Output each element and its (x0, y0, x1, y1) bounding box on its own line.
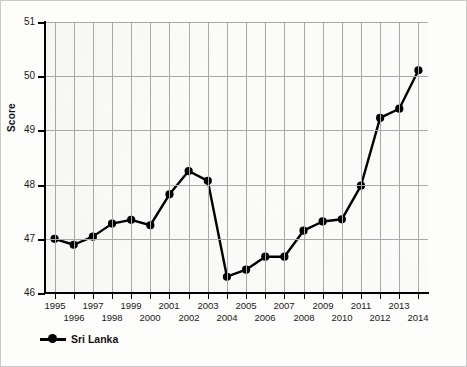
y-tick-label-46: 46 (24, 288, 35, 298)
legend-dot (48, 334, 57, 343)
gridline-v-2002 (189, 22, 190, 293)
x-tick-label-2014: 2014 (407, 313, 428, 323)
x-tick-mark-2003 (208, 293, 209, 299)
gridline-h-47 (45, 239, 428, 240)
x-tick-label-1998: 1998 (101, 313, 122, 323)
x-tick-mark-2014 (418, 293, 419, 299)
gridline-v-2010 (342, 22, 343, 293)
y-axis-title: Score (6, 103, 17, 132)
x-tick-mark-1998 (112, 293, 113, 299)
x-tick-label-1997: 1997 (82, 301, 103, 311)
legend-label-sri-lanka: Sri Lanka (71, 333, 118, 345)
y-tick-mark-50 (38, 76, 45, 78)
x-tick-label-2005: 2005 (235, 301, 256, 311)
x-tick-mark-2005 (246, 293, 247, 299)
gridline-v-2004 (227, 22, 228, 293)
x-tick-mark-2000 (150, 293, 151, 299)
y-tick-mark-51 (38, 22, 45, 24)
y-tick-label-50: 50 (24, 71, 35, 81)
gridline-v-2011 (361, 22, 362, 293)
legend-marker-sri-lanka (40, 334, 66, 345)
x-tick-label-2000: 2000 (139, 313, 160, 323)
y-tick-label-47: 47 (24, 234, 35, 244)
chart-legend: Sri Lanka (40, 333, 118, 345)
x-axis-line (44, 292, 429, 294)
gridline-v-2008 (304, 22, 305, 293)
x-tick-label-2010: 2010 (331, 313, 352, 323)
gridline-v-2003 (208, 22, 209, 293)
x-tick-mark-2004 (227, 293, 228, 299)
x-tick-label-2003: 2003 (197, 301, 218, 311)
x-tick-label-2007: 2007 (273, 301, 294, 311)
gridline-h-51 (45, 22, 428, 23)
x-tick-label-2011: 2011 (351, 301, 371, 311)
chart-figure: 464748495051 199519961997199819992000200… (0, 0, 467, 367)
series-line-sri-lanka (45, 22, 428, 293)
x-tick-mark-2002 (189, 293, 190, 299)
gridline-h-50 (45, 76, 428, 77)
y-tick-mark-49 (38, 130, 45, 132)
gridline-v-1999 (131, 22, 132, 293)
x-tick-label-1999: 1999 (120, 301, 141, 311)
gridline-v-2005 (246, 22, 247, 293)
gridline-v-2012 (380, 22, 381, 293)
x-tick-label-2009: 2009 (312, 301, 333, 311)
gridline-v-1998 (112, 22, 113, 293)
x-tick-mark-1995 (55, 293, 56, 299)
gridline-v-2007 (284, 22, 285, 293)
x-tick-label-2008: 2008 (293, 313, 314, 323)
gridline-h-48 (45, 185, 428, 186)
x-tick-mark-2006 (265, 293, 266, 299)
y-tick-mark-48 (38, 185, 45, 187)
x-tick-label-2004: 2004 (216, 313, 237, 323)
y-tick-label-48: 48 (24, 180, 35, 190)
gridline-v-2000 (150, 22, 151, 293)
gridline-v-2009 (323, 22, 324, 293)
y-tick-mark-47 (38, 239, 45, 241)
x-tick-mark-1996 (74, 293, 75, 299)
y-tick-mark-46 (38, 293, 45, 295)
gridline-v-2006 (265, 22, 266, 293)
y-axis-line (44, 21, 46, 294)
y-tick-label-51: 51 (24, 17, 35, 27)
x-tick-mark-2007 (284, 293, 285, 299)
x-tick-mark-2009 (323, 293, 324, 299)
gridline-v-2013 (399, 22, 400, 293)
gridline-v-2001 (169, 22, 170, 293)
x-tick-label-2006: 2006 (254, 313, 275, 323)
y-tick-label-49: 49 (24, 125, 35, 135)
x-tick-label-2002: 2002 (178, 313, 199, 323)
gridline-v-1995 (55, 22, 56, 293)
x-tick-mark-2011 (361, 293, 362, 299)
x-tick-label-1995: 1995 (44, 301, 65, 311)
gridline-v-2014 (418, 22, 419, 293)
x-tick-label-2013: 2013 (388, 301, 409, 311)
plot-area (45, 22, 428, 293)
x-tick-mark-2012 (380, 293, 381, 299)
x-tick-mark-2001 (169, 293, 170, 299)
gridline-h-49 (45, 130, 428, 131)
x-tick-label-2012: 2012 (369, 313, 390, 323)
x-tick-mark-2008 (304, 293, 305, 299)
x-tick-label-1996: 1996 (63, 313, 84, 323)
gridline-v-1997 (93, 22, 94, 293)
x-tick-mark-2013 (399, 293, 400, 299)
x-tick-mark-1997 (93, 293, 94, 299)
x-tick-mark-2010 (342, 293, 343, 299)
x-tick-label-2001: 2001 (158, 301, 179, 311)
x-tick-mark-1999 (131, 293, 132, 299)
gridline-v-1996 (74, 22, 75, 293)
